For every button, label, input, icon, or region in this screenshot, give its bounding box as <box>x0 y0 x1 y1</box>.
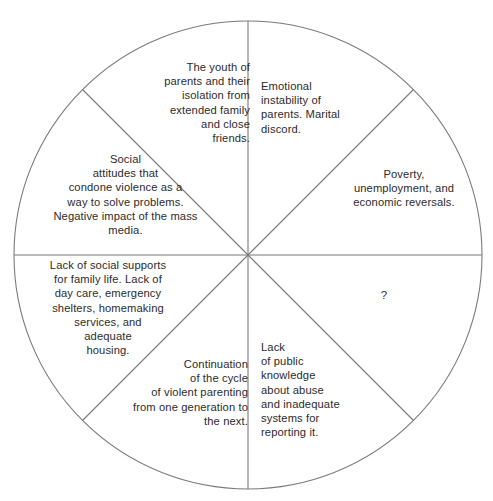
segment-label-question-mark: ? <box>372 288 396 302</box>
segment-label-emotional-instability: Emotional instability of parents. Marita… <box>261 79 401 136</box>
segment-label-continuation-cycle: Continuation of the cycle of violent par… <box>96 357 248 428</box>
segment-label-social-attitudes: Social attitudes that condone violence a… <box>18 152 233 237</box>
segment-label-youth-isolation: The youth of parents and their isolation… <box>118 60 250 145</box>
wheel-diagram: The youth of parents and their isolation… <box>0 0 493 501</box>
segment-label-poverty-unemployment: Poverty, unemployment, and economic reve… <box>333 167 475 210</box>
segment-label-lack-social-supports: Lack of social supports for family life.… <box>16 258 200 357</box>
segment-label-lack-public-knowledge: Lack of public knowledge about abuse and… <box>261 340 365 439</box>
